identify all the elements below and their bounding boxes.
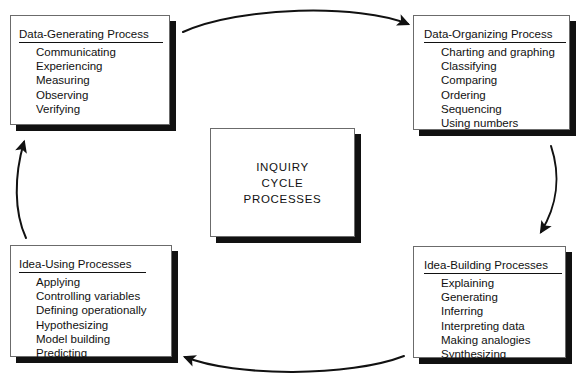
inquiry-cycle-diagram: Data-Generating Process Communicating Ex…	[0, 0, 580, 381]
list-item: Ordering	[441, 88, 561, 102]
list-item: Comparing	[441, 73, 561, 87]
arrow-bottom	[185, 356, 404, 372]
list-item: Applying	[36, 275, 163, 289]
node-data-generating-process[interactable]: Data-Generating Process Communicating Ex…	[10, 15, 170, 125]
list-item: Generating	[441, 290, 557, 304]
list-item: Communicating	[36, 45, 161, 59]
list-item: Model building	[36, 332, 163, 346]
list-item: Observing	[36, 88, 161, 102]
list-item: Defining operationally	[36, 303, 163, 317]
node-item-list: Explaining Generating Inferring Interpre…	[424, 276, 557, 361]
node-item-list: Applying Controlling variables Defining …	[19, 275, 163, 360]
node-idea-using-processes[interactable]: Idea-Using Processes Applying Controllin…	[10, 245, 172, 357]
center-line: CYCLE	[262, 175, 304, 191]
center-line: INQUIRY	[256, 159, 309, 175]
list-item: Measuring	[36, 73, 161, 87]
node-idea-building-processes[interactable]: Idea-Building Processes Explaining Gener…	[413, 246, 566, 358]
arrow-left	[17, 142, 26, 238]
list-item: Predicting	[36, 346, 163, 360]
list-item: Hypothesizing	[36, 318, 163, 332]
node-item-list: Communicating Experiencing Measuring Obs…	[19, 45, 161, 116]
list-item: Interpreting data	[441, 319, 557, 333]
node-title: Data-Organizing Process	[424, 27, 566, 43]
list-item: Controlling variables	[36, 289, 163, 303]
node-data-organizing-process[interactable]: Data-Organizing Process Charting and gra…	[413, 15, 570, 130]
node-title: Idea-Using Processes	[19, 257, 146, 273]
list-item: Using numbers	[441, 116, 561, 130]
list-item: Making analogies	[441, 333, 557, 347]
list-item: Explaining	[441, 276, 557, 290]
center-label-box: INQUIRY CYCLE PROCESSES	[210, 128, 355, 237]
node-item-list: Charting and graphing Classifying Compar…	[424, 45, 561, 130]
arrow-top	[183, 11, 408, 32]
node-title: Data-Generating Process	[19, 27, 163, 43]
list-item: Inferring	[441, 304, 557, 318]
center-line: PROCESSES	[244, 191, 322, 207]
list-item: Synthesizing	[441, 347, 557, 361]
list-item: Classifying	[441, 59, 561, 73]
list-item: Verifying	[36, 102, 161, 116]
list-item: Charting and graphing	[441, 45, 561, 59]
list-item: Sequencing	[441, 102, 561, 116]
arrow-right	[541, 146, 556, 232]
list-item: Experiencing	[36, 59, 161, 73]
node-title: Idea-Building Processes	[424, 258, 562, 274]
